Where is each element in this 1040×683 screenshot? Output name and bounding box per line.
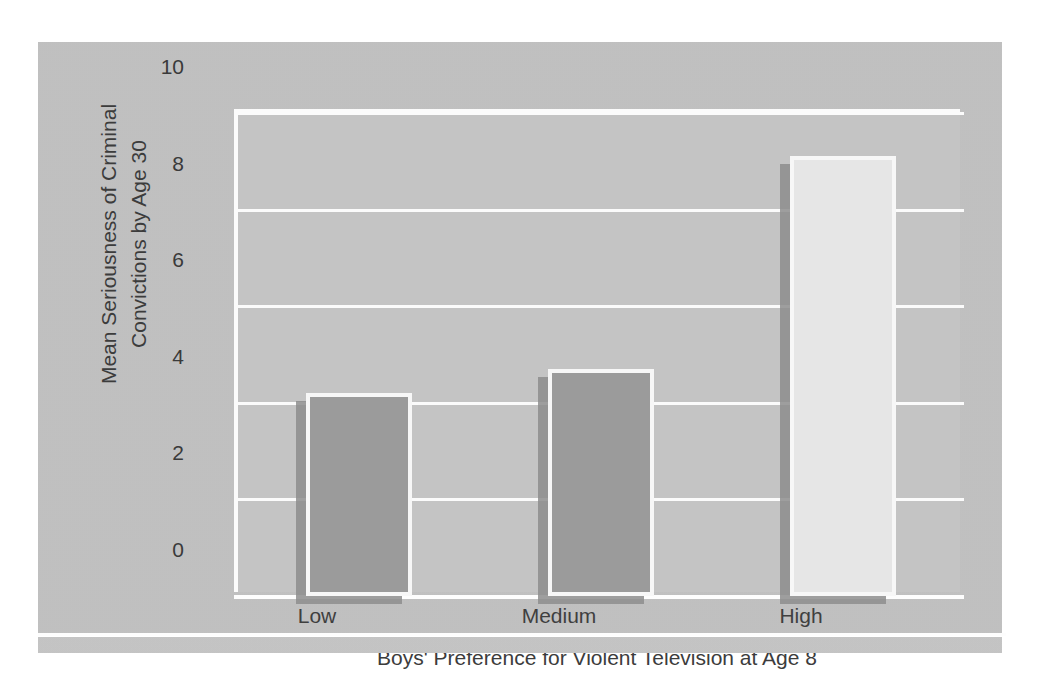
x-tick-label-medium: Medium bbox=[522, 605, 597, 626]
bar-low[interactable] bbox=[306, 393, 412, 596]
plot-inner bbox=[238, 113, 960, 592]
plot-area bbox=[234, 109, 960, 592]
x-tick-label-low: Low bbox=[298, 605, 337, 626]
figure-panel: 0246810 LowMediumHigh Boys' Preference f… bbox=[38, 42, 1002, 634]
figure-footer-strip bbox=[38, 637, 1002, 653]
bar-medium[interactable] bbox=[548, 369, 654, 596]
bar-high[interactable] bbox=[790, 156, 896, 596]
y-axis-title: Mean Seriousness of Criminal Convictions… bbox=[94, 24, 154, 464]
gridline bbox=[238, 112, 964, 115]
chart-canvas: 0246810 LowMediumHigh Boys' Preference f… bbox=[0, 0, 1040, 683]
x-tick-label-high: High bbox=[779, 605, 822, 626]
y-tick-label: 0 bbox=[144, 539, 184, 560]
y-axis-title-line-2: Convictions by Age 30 bbox=[124, 104, 154, 384]
figure-separator-line bbox=[38, 633, 1006, 636]
y-axis-title-line-1: Mean Seriousness of Criminal bbox=[94, 104, 124, 384]
